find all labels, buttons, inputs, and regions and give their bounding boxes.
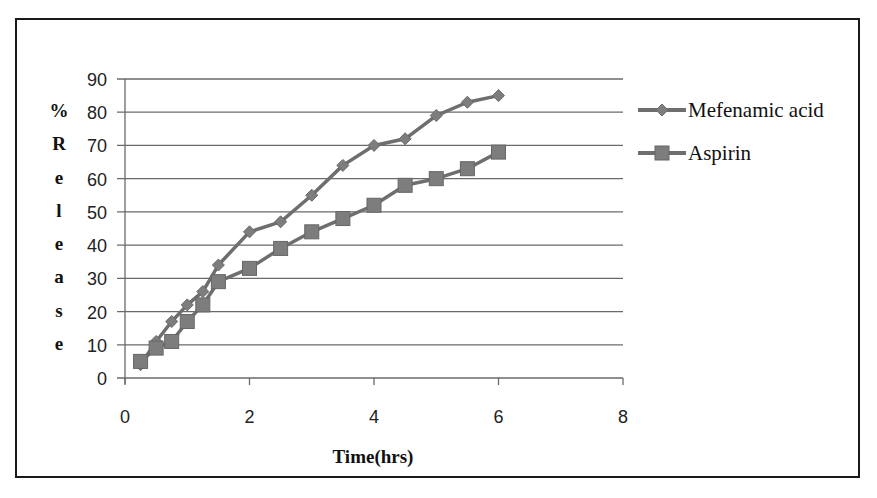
x-tick-label: 8 bbox=[618, 407, 628, 427]
y-axis-label-char: a bbox=[44, 266, 74, 288]
data-point-diamond bbox=[461, 96, 473, 108]
data-point-square bbox=[211, 275, 225, 289]
data-point-square bbox=[367, 198, 381, 212]
y-tick-label: 90 bbox=[87, 70, 107, 90]
diamond-marker-icon bbox=[636, 96, 688, 124]
data-point-diamond bbox=[493, 90, 505, 102]
y-axis-label-char: e bbox=[44, 333, 74, 355]
data-point-square bbox=[305, 225, 319, 239]
axes bbox=[125, 79, 623, 385]
data-point-square bbox=[492, 145, 506, 159]
y-tick-label: 40 bbox=[87, 236, 107, 256]
data-point-square bbox=[460, 162, 474, 176]
y-tick-label: 60 bbox=[87, 170, 107, 190]
y-tick-label: 20 bbox=[87, 303, 107, 323]
y-axis-label-char: e bbox=[44, 167, 74, 189]
data-point-square bbox=[180, 315, 194, 329]
data-point-square bbox=[243, 261, 257, 275]
data-series bbox=[134, 90, 506, 371]
y-tick-label: 30 bbox=[87, 269, 107, 289]
y-axis-label-char: s bbox=[44, 300, 74, 322]
y-axis-label-char: R bbox=[44, 133, 74, 155]
y-tick-labels: 0102030405060708090 bbox=[87, 70, 107, 389]
legend-label: Mefenamic acid bbox=[688, 96, 824, 124]
y-tick-label: 0 bbox=[97, 369, 107, 389]
x-tick-label: 4 bbox=[369, 407, 379, 427]
data-point-square bbox=[274, 241, 288, 255]
x-axis-label: Time(hrs) bbox=[318, 446, 428, 468]
data-point-square bbox=[429, 172, 443, 186]
data-point-square bbox=[149, 341, 163, 355]
y-axis-label-char: % bbox=[44, 100, 74, 122]
y-axis-label-char: l bbox=[44, 200, 74, 222]
square-marker-icon bbox=[636, 139, 688, 167]
data-point-square bbox=[165, 334, 179, 348]
legend-label: Aspirin bbox=[688, 139, 751, 167]
data-point-square bbox=[398, 178, 412, 192]
data-point-square bbox=[196, 298, 210, 312]
y-tick-label: 80 bbox=[87, 103, 107, 123]
y-tick-label: 70 bbox=[87, 136, 107, 156]
y-axis-label-char: e bbox=[44, 233, 74, 255]
x-tick-labels: 02468 bbox=[120, 407, 628, 427]
gridlines bbox=[117, 79, 623, 378]
chart-plot: 0102030405060708090 02468 bbox=[0, 0, 877, 498]
y-tick-label: 10 bbox=[87, 336, 107, 356]
data-point-square bbox=[134, 354, 148, 368]
x-tick-label: 2 bbox=[244, 407, 254, 427]
data-point-square bbox=[336, 212, 350, 226]
x-tick-label: 6 bbox=[493, 407, 503, 427]
x-tick-label: 0 bbox=[120, 407, 130, 427]
y-tick-label: 50 bbox=[87, 203, 107, 223]
